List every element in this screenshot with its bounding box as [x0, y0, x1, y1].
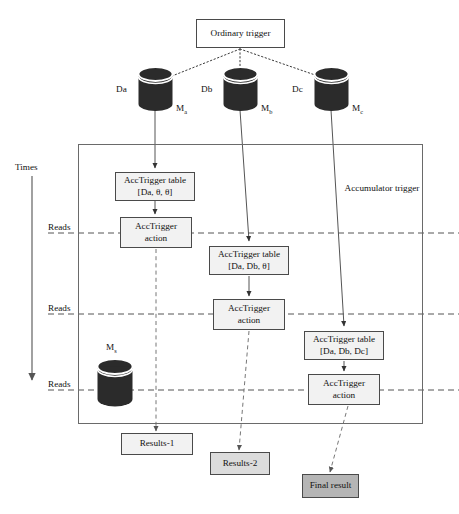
machine-label-ms: Ms — [106, 342, 117, 354]
reads-label-1: Reads — [48, 222, 70, 232]
machine-label-ma: Ma — [176, 103, 187, 115]
acctrigger-action-1[interactable]: AccTrigger action — [120, 217, 192, 248]
reads-label-3: Reads — [48, 379, 70, 389]
database-label-dc: Dc — [292, 84, 303, 94]
reads-label-2: Reads — [48, 303, 70, 313]
storage-cylinder-ms — [96, 358, 134, 408]
acctrigger-table-1[interactable]: AccTrigger table [Da, θ, θ] — [115, 172, 195, 201]
acctrigger-table-3[interactable]: AccTrigger table [Da, Db, Dc] — [304, 331, 384, 360]
diagram-canvas: Accumulator trigger Ordinary trigger Da … — [0, 0, 459, 514]
database-cylinder-dc — [313, 66, 350, 112]
results-2-node[interactable]: Results-2 — [210, 452, 270, 475]
results-1-node[interactable]: Results-1 — [121, 433, 193, 455]
accumulator-trigger-label: Accumulator trigger — [342, 183, 422, 195]
times-axis-label: Times — [15, 162, 38, 172]
machine-label-mb: Mb — [261, 103, 272, 115]
acctrigger-action-3[interactable]: AccTrigger action — [308, 374, 380, 405]
acctrigger-action-2[interactable]: AccTrigger action — [213, 299, 285, 330]
machine-label-mc: Mc — [352, 103, 363, 115]
final-result-node[interactable]: Final result — [302, 474, 359, 498]
database-label-db: Db — [201, 84, 212, 94]
database-label-da: Da — [116, 84, 127, 94]
database-cylinder-da — [137, 66, 174, 112]
ordinary-trigger-node[interactable]: Ordinary trigger — [196, 19, 285, 48]
database-cylinder-db — [222, 66, 259, 112]
acctrigger-table-2[interactable]: AccTrigger table [Da, Db, θ] — [209, 246, 289, 275]
